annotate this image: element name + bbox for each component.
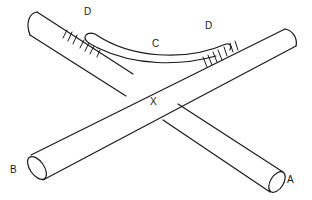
sleeve-c-lower-curve — [98, 48, 216, 63]
rod-b-bottom-edge — [43, 46, 296, 180]
label-d-right: D — [205, 21, 212, 31]
rod-a-top-edge-lower — [178, 104, 283, 172]
rod-b — [24, 29, 297, 183]
label-x: X — [150, 97, 157, 107]
label-d-left: D — [84, 7, 91, 17]
label-c: C — [152, 39, 159, 49]
rod-a-end-cap — [28, 12, 37, 35]
rod-a-bottom-edge-upper — [30, 35, 126, 96]
label-b: B — [10, 165, 17, 175]
rod-a-bottom-edge-lower — [163, 120, 270, 192]
label-a: A — [287, 175, 294, 185]
rod-a-top-edge-upper — [37, 12, 133, 74]
binding-d-right — [203, 41, 238, 67]
rod-b-end-cap — [285, 29, 296, 46]
diagram-canvas: D C D X B A — [0, 0, 312, 200]
